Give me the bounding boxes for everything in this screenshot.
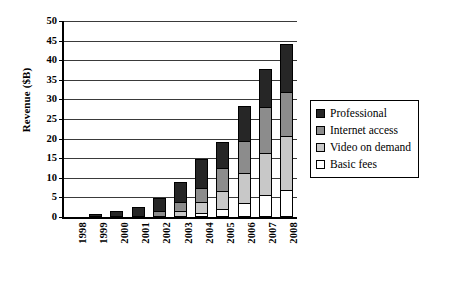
y-axis-tick-label: 30 bbox=[47, 94, 58, 105]
bar-segment bbox=[280, 92, 293, 137]
bar-segment bbox=[195, 213, 208, 217]
bar-segment bbox=[132, 207, 145, 217]
bar-segment bbox=[238, 203, 251, 217]
y-axis-tick bbox=[59, 119, 64, 120]
x-axis-tick-label: 2003 bbox=[183, 222, 194, 244]
legend-item-label: Internet access bbox=[330, 125, 398, 137]
legend-item-label: Basic fees bbox=[330, 159, 377, 171]
bar-stack bbox=[259, 69, 272, 217]
bar-segment bbox=[216, 191, 229, 211]
legend-item[interactable]: Professional bbox=[316, 105, 411, 122]
bar-stack bbox=[89, 214, 102, 217]
y-axis-tick bbox=[59, 80, 64, 81]
y-axis-tick bbox=[59, 178, 64, 179]
bar-segment bbox=[238, 173, 251, 204]
legend-item[interactable]: Internet access bbox=[316, 122, 411, 139]
y-axis-tick-label: 20 bbox=[47, 133, 58, 144]
bar-segment bbox=[259, 195, 272, 217]
bar-segment bbox=[259, 153, 272, 196]
bar-segment bbox=[280, 136, 293, 191]
bar-segment bbox=[153, 211, 166, 217]
bar-segment bbox=[195, 159, 208, 188]
bar-stack bbox=[174, 182, 187, 217]
y-axis-tick-label: 10 bbox=[47, 173, 58, 184]
bar-stack bbox=[216, 142, 229, 217]
legend-item[interactable]: Video on demand bbox=[316, 139, 411, 156]
y-axis-tick-label: 50 bbox=[47, 16, 58, 27]
legend-swatch-icon bbox=[316, 126, 325, 135]
bar-stack bbox=[132, 207, 145, 217]
bar-segment bbox=[216, 209, 229, 217]
y-axis-tick-label: 35 bbox=[47, 75, 58, 86]
legend-item[interactable]: Basic fees bbox=[316, 156, 411, 173]
legend-swatch-icon bbox=[316, 109, 325, 118]
x-axis-tick-label: 1998 bbox=[77, 222, 88, 244]
bar-segment bbox=[238, 141, 251, 174]
bar-segment bbox=[259, 69, 272, 108]
bar-segment bbox=[174, 182, 187, 204]
bar-stack bbox=[153, 198, 166, 217]
bar-segment bbox=[110, 211, 123, 217]
y-axis-tick bbox=[59, 139, 64, 140]
x-axis-tick-label: 1999 bbox=[98, 222, 109, 244]
gridline bbox=[64, 21, 297, 22]
x-axis-tick-label: 2006 bbox=[246, 222, 257, 244]
legend-swatch-icon bbox=[316, 160, 325, 169]
y-axis-tick-label: 0 bbox=[52, 212, 57, 223]
y-axis-tick bbox=[59, 99, 64, 100]
bar-stack bbox=[195, 159, 208, 217]
y-axis-tick-label: 40 bbox=[47, 55, 58, 66]
legend-item-label: Video on demand bbox=[330, 142, 411, 154]
plot-area: 05101520253035404550 bbox=[62, 21, 297, 219]
bar-segment bbox=[280, 44, 293, 93]
y-axis-tick-label: 25 bbox=[47, 114, 58, 125]
revenue-stacked-bar-chart: Revenue ($B) 05101520253035404550 199819… bbox=[0, 0, 451, 295]
bar-stack bbox=[110, 211, 123, 217]
y-axis-title: Revenue ($B) bbox=[20, 30, 32, 170]
x-axis-tick-label: 2005 bbox=[225, 222, 236, 244]
bar-stack bbox=[238, 106, 251, 217]
bar-segment bbox=[195, 188, 208, 204]
x-axis-tick-label: 2008 bbox=[288, 222, 299, 244]
y-axis-tick-label: 45 bbox=[47, 35, 58, 46]
chart-legend: ProfessionalInternet accessVideo on dema… bbox=[310, 100, 419, 178]
y-axis-tick bbox=[59, 41, 64, 42]
y-axis-tick-label: 15 bbox=[47, 153, 58, 164]
legend-swatch-icon bbox=[316, 143, 325, 152]
bar-segment bbox=[259, 107, 272, 154]
x-axis-tick-label: 2002 bbox=[161, 222, 172, 244]
bar-segment bbox=[216, 142, 229, 169]
y-axis-tick bbox=[59, 197, 64, 198]
bar-segment bbox=[280, 190, 293, 217]
bar-segment bbox=[89, 214, 102, 217]
y-axis-tick bbox=[59, 158, 64, 159]
bar-segment bbox=[153, 198, 166, 212]
x-axis-tick-label: 2000 bbox=[119, 222, 130, 244]
x-axis-tick-label: 2007 bbox=[267, 222, 278, 244]
y-axis-tick bbox=[59, 21, 64, 22]
bar-segment bbox=[216, 168, 229, 192]
legend-item-label: Professional bbox=[330, 108, 387, 120]
bar-stack bbox=[280, 44, 293, 217]
y-axis-tick bbox=[59, 217, 64, 218]
y-axis-tick-label: 5 bbox=[52, 192, 57, 203]
bar-segment bbox=[238, 106, 251, 141]
gridline bbox=[64, 60, 297, 61]
x-axis-tick-label: 2004 bbox=[204, 222, 215, 244]
y-axis-tick bbox=[59, 60, 64, 61]
gridline bbox=[64, 41, 297, 42]
bar-segment bbox=[174, 211, 187, 217]
x-axis-tick-label: 2001 bbox=[140, 222, 151, 244]
